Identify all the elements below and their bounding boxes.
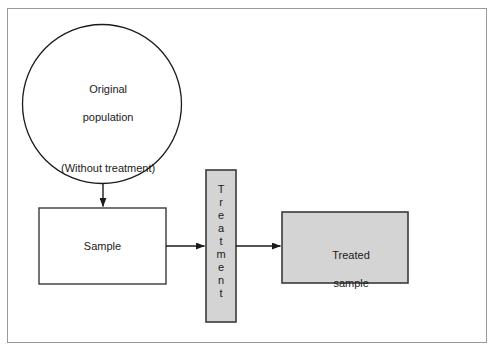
diagram-canvas: [0, 0, 494, 352]
treated-sample-box: [282, 212, 408, 283]
treatment-bar: [206, 170, 236, 322]
sample-box: [39, 208, 166, 284]
population-circle: [23, 25, 182, 184]
diagram-root: Original population (Without treatment) …: [0, 0, 494, 352]
